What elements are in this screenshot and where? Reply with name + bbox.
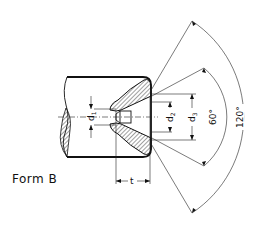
svg-text:d1: d1 (86, 111, 97, 121)
svg-text:d3: d3 (187, 112, 198, 122)
svg-text:60°: 60° (208, 109, 218, 125)
dimension-t: t (116, 176, 150, 186)
center-hole-drawing: d1 d2 d3 t 60° (0, 0, 257, 226)
dimension-d2: d2 (165, 102, 176, 132)
svg-text:t: t (130, 176, 134, 186)
break-section-hatch (60, 108, 70, 157)
dimension-d3: d3 (187, 94, 198, 140)
svg-text:d2: d2 (165, 112, 176, 122)
dimension-d1: d1 (86, 96, 97, 138)
upper-cone-section-hatch (110, 80, 151, 111)
svg-text:120°: 120° (235, 106, 245, 128)
